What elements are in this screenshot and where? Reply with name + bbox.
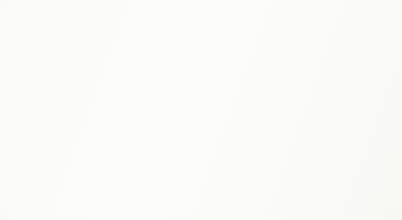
dot-marker: [177, 84, 183, 90]
region-count-triangle-only: 3: [155, 132, 162, 146]
dot-marker: [262, 163, 268, 169]
dot-marker: [222, 163, 228, 169]
region-count-outer-bottom-left: 2: [62, 176, 69, 190]
dot-marker: [177, 99, 183, 105]
region-count-outer-top-left: 2: [64, 44, 71, 58]
region-count-outer-bottom-right: 2: [324, 176, 331, 190]
region-count-square-only: 3: [255, 119, 262, 133]
region-count-circle-triangle: 4: [189, 62, 196, 76]
circle-shape: [160, 28, 252, 120]
region-count-triangle-square: 4: [200, 134, 207, 148]
diagram-canvas: 22223454343: [0, 0, 402, 220]
dot-marker: [242, 163, 248, 169]
dot-marker: [355, 143, 361, 149]
dot-marker: [120, 192, 126, 198]
dot-marker: [108, 87, 114, 93]
region-count-circle-square: 4: [228, 96, 235, 110]
dot-marker: [210, 108, 216, 114]
region-count-circle-only: 3: [216, 38, 223, 52]
region-count-circle-triangle-square: 5: [198, 102, 205, 116]
region-count-outer-top-right: 2: [326, 44, 333, 58]
dot-marker: [262, 145, 268, 151]
dot-marker: [313, 86, 319, 92]
